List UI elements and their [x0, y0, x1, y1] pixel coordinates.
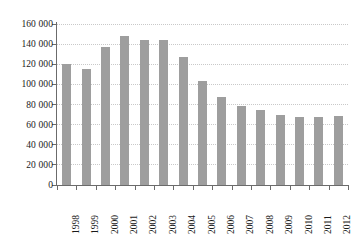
x-axis-label-2003: 2003	[168, 192, 178, 234]
x-axis-tickmark	[251, 186, 252, 190]
bar-2011	[314, 117, 323, 185]
x-axis-tickmark	[309, 186, 310, 190]
bar-2002	[140, 40, 149, 185]
x-axis-label-2007: 2007	[245, 192, 255, 234]
x-axis-label-2004: 2004	[187, 192, 197, 234]
bar-2005	[198, 81, 207, 185]
x-axis-tickmark	[348, 186, 349, 190]
x-axis-tickmark	[154, 186, 155, 190]
bar-1999	[82, 69, 91, 185]
x-axis-label-2001: 2001	[129, 192, 139, 234]
bar-2000	[101, 47, 110, 185]
x-axis-tickmark	[193, 186, 194, 190]
bar-chart: 020 00040 00060 00080 000100 000120 0001…	[0, 0, 361, 236]
bar-2009	[276, 115, 285, 185]
y-axis-tick-label: 120 000	[21, 59, 53, 69]
y-axis-tick-label: 0	[48, 180, 53, 190]
x-axis-label-2009: 2009	[284, 192, 294, 234]
x-axis-tickmark	[212, 186, 213, 190]
x-axis-labels-group: 1998199920002001200220032004200520062007…	[57, 192, 348, 236]
y-axis-tick-label: 60 000	[26, 120, 53, 130]
bar-2007	[237, 106, 246, 185]
x-axis-label-2011: 2011	[323, 192, 333, 234]
x-axis-tickmark	[173, 186, 174, 190]
x-axis-label-1999: 1999	[90, 192, 100, 234]
x-axis-label-2006: 2006	[226, 192, 236, 234]
x-axis-tickmark	[57, 186, 58, 190]
x-axis-label-2000: 2000	[110, 192, 120, 234]
bar-2008	[256, 110, 265, 185]
y-axis-tick-label: 20 000	[26, 160, 53, 170]
bar-2006	[217, 97, 226, 185]
bar-2004	[179, 57, 188, 185]
bar-2012	[334, 116, 343, 185]
x-axis-tickmark	[329, 186, 330, 190]
x-axis-tickmark	[135, 186, 136, 190]
y-axis-tick-label: 140 000	[21, 39, 53, 49]
x-axis-label-2010: 2010	[304, 192, 314, 234]
bar-2010	[295, 117, 304, 185]
y-axis-tick-label: 100 000	[21, 79, 53, 89]
bars-group	[57, 24, 348, 185]
y-axis-tick-label: 160 000	[21, 19, 53, 29]
x-axis-label-2012: 2012	[342, 192, 352, 234]
x-axis-label-2002: 2002	[148, 192, 158, 234]
x-axis-label-2005: 2005	[207, 192, 217, 234]
bar-2001	[120, 36, 129, 185]
x-axis-tickmark	[232, 186, 233, 190]
x-axis-tickmark	[96, 186, 97, 190]
x-axis-label-2008: 2008	[265, 192, 275, 234]
x-axis-tickmark	[115, 186, 116, 190]
x-axis-label-1998: 1998	[71, 192, 81, 234]
x-axis-tickmark	[270, 186, 271, 190]
bar-2003	[159, 40, 168, 185]
x-axis-tickmark	[76, 186, 77, 190]
x-axis-tickmark	[290, 186, 291, 190]
bar-1998	[62, 64, 71, 185]
y-axis-tick-label: 80 000	[26, 100, 53, 110]
y-axis-tick-label: 40 000	[26, 140, 53, 150]
